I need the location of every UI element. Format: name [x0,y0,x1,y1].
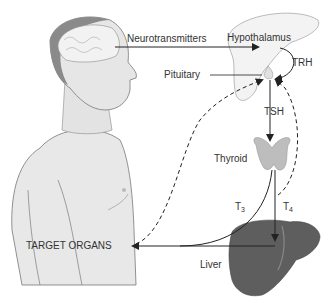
label-t3: T3 [235,202,245,213]
label-neurotransmitters: Neurotransmitters [127,34,206,44]
label-tsh: TSH [264,107,284,117]
label-t4: T4 [283,202,293,213]
thyroid-gland-icon [254,137,290,170]
label-thyroid: Thyroid [214,154,247,164]
label-trh: TRH [292,58,313,68]
label-liver: Liver [200,260,222,270]
diagram-illustration [0,0,330,303]
hpt-axis-diagram: Neurotransmitters Hypothalamus TRH Pitui… [0,0,330,303]
label-pituitary: Pituitary [164,70,200,80]
label-hypothalamus: Hypothalamus [227,33,291,43]
label-target-organs: TARGET ORGANS [26,241,112,251]
